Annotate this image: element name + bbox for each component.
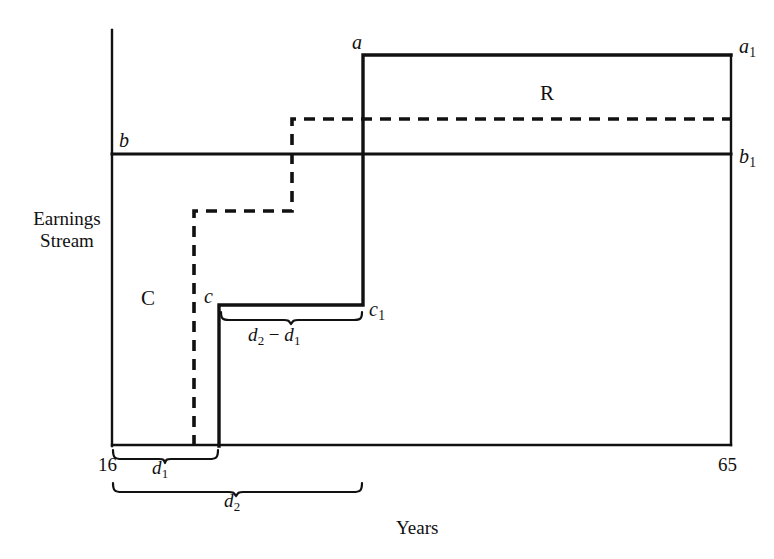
brace-label-d1: d1 bbox=[152, 458, 168, 477]
x-tick-start-label: 16 bbox=[98, 455, 117, 474]
brace-label-d2-subscript: 2 bbox=[234, 499, 240, 514]
brace-label-d1-base: d bbox=[152, 457, 162, 478]
point-label-c1-base: c bbox=[369, 298, 378, 320]
solid-earnings-step-path bbox=[219, 55, 731, 446]
brace-label-d2-base: d bbox=[224, 490, 234, 511]
point-label-b: b bbox=[119, 130, 129, 150]
point-label-a1-base: a bbox=[739, 35, 749, 57]
dashed-alternative-step-path bbox=[194, 119, 731, 446]
y-axis-title: Earnings Stream bbox=[26, 208, 108, 252]
y-axis-title-line1: Earnings bbox=[33, 208, 101, 229]
point-label-b1-base: b bbox=[739, 145, 749, 167]
brace-label-diff-operator: − bbox=[264, 324, 284, 345]
point-label-a1-subscript: 1 bbox=[749, 45, 756, 60]
region-label-returns: R bbox=[540, 83, 554, 104]
point-label-c: c bbox=[204, 286, 213, 306]
x-tick-end-label: 65 bbox=[718, 455, 737, 474]
point-label-b1-subscript: 1 bbox=[749, 155, 756, 170]
axes-group bbox=[112, 30, 731, 446]
point-label-a: a bbox=[352, 32, 362, 52]
brace-label-diff-first-base: d bbox=[248, 324, 258, 345]
brace-label-diff-second-base: d bbox=[284, 324, 294, 345]
point-label-c1-subscript: 1 bbox=[378, 308, 385, 323]
brace-label-diff-second-subscript: 1 bbox=[294, 333, 300, 348]
point-label-c1: c1 bbox=[369, 299, 385, 319]
dashed-step-polyline bbox=[194, 119, 731, 446]
point-label-a1: a1 bbox=[739, 36, 756, 56]
earnings-stream-diagram bbox=[0, 0, 774, 559]
solid-step-polyline bbox=[219, 55, 731, 446]
x-axis-title: Years bbox=[396, 518, 438, 537]
brace-label-d2-minus-d1: d2 − d1 bbox=[248, 325, 300, 344]
y-axis-title-line2: Stream bbox=[40, 230, 94, 251]
brace-label-d1-subscript: 1 bbox=[162, 466, 168, 481]
figure-canvas: Earnings Stream Years 16 65 b b1 a a1 c … bbox=[0, 0, 774, 559]
brace-label-d2: d2 bbox=[224, 491, 240, 510]
point-label-b1: b1 bbox=[739, 146, 756, 166]
brace-label-diff-first-subscript: 2 bbox=[258, 333, 264, 348]
region-label-costs: C bbox=[141, 288, 155, 309]
brace-d2-minus-d1 bbox=[221, 312, 362, 324]
